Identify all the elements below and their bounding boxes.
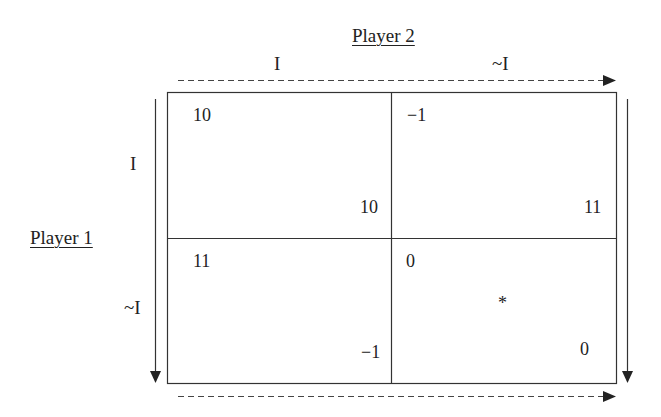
cell-r1c0-row-payoff: 11	[193, 252, 210, 270]
cell-r1c1-col-payoff: 0	[580, 340, 589, 358]
equilibrium-marker: *	[498, 294, 507, 312]
cell-r0c0-row-payoff: 10	[193, 106, 211, 124]
bottom-arrowhead-icon	[603, 391, 616, 402]
left-arrowhead-icon	[150, 371, 161, 383]
row-strategy-i: I	[130, 154, 136, 173]
right-arrowhead-icon	[622, 371, 633, 383]
column-strategy-not-i: ~I	[492, 54, 509, 73]
payoff-grid-graphics	[0, 0, 661, 417]
cell-r0c1-col-payoff: 11	[584, 198, 601, 216]
row-strategy-not-i: ~I	[124, 298, 141, 317]
top-arrowhead-icon	[603, 75, 616, 86]
cell-r0c0-col-payoff: 10	[360, 198, 378, 216]
column-strategy-i: I	[274, 54, 280, 73]
cell-r1c0-col-payoff: −1	[361, 343, 380, 361]
cell-r0c1-row-payoff: −1	[407, 106, 426, 124]
column-player-label: Player 2	[352, 26, 415, 45]
cell-r1c1-row-payoff: 0	[406, 252, 415, 270]
row-player-label: Player 1	[30, 228, 93, 247]
